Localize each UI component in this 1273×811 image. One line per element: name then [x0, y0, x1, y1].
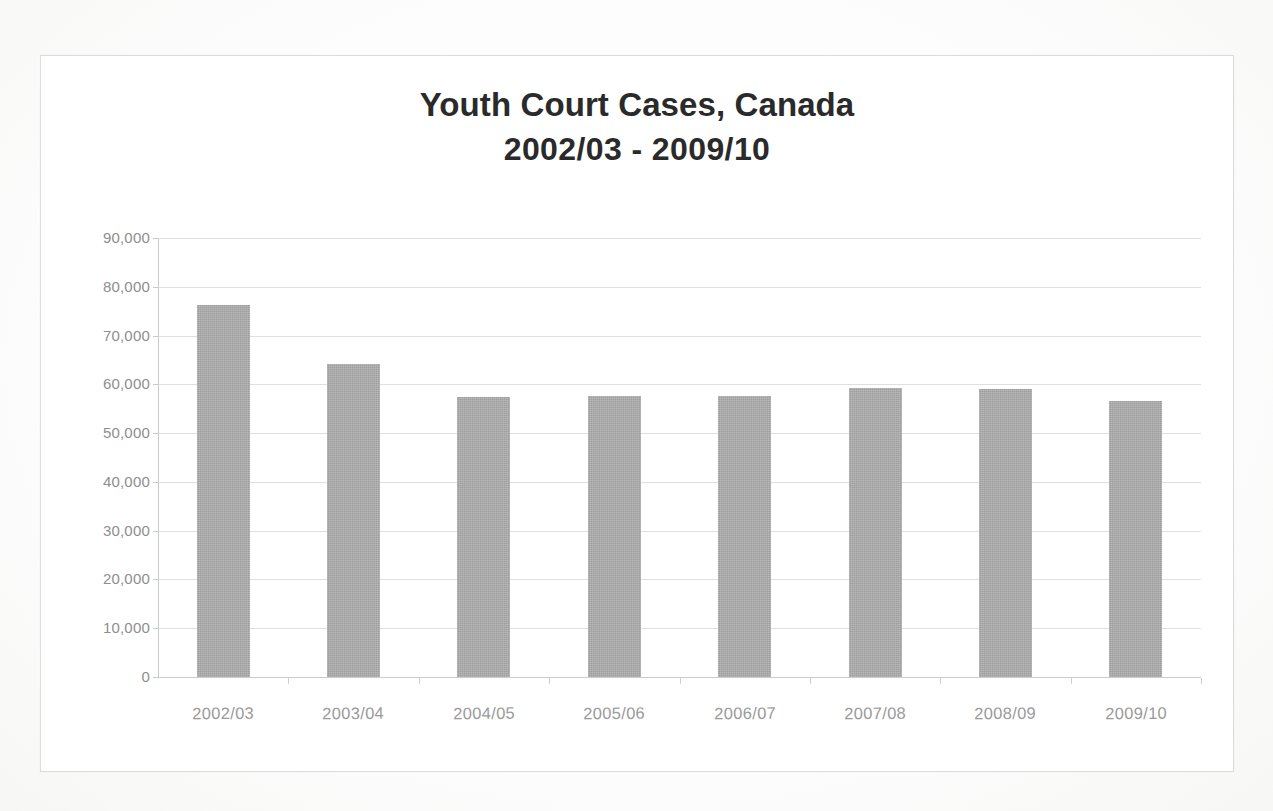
- x-tick-mark: [1071, 678, 1072, 684]
- bar-series: [158, 238, 1201, 677]
- x-tick-label-2009-10: 2009/10: [1071, 704, 1202, 724]
- y-tick-label: 30,000: [40, 522, 150, 539]
- x-tick-label-2007-08: 2007/08: [810, 704, 941, 724]
- x-tick-label-2006-07: 2006/07: [679, 704, 810, 724]
- bar-2007-08: [849, 388, 902, 677]
- x-tick-mark: [549, 678, 550, 684]
- chart-title-line-2: 2002/03 - 2009/10: [41, 127, 1233, 172]
- y-tick-label: 90,000: [40, 229, 150, 246]
- bar-2006-07: [718, 396, 771, 677]
- y-tick-label: 60,000: [40, 375, 150, 392]
- bar-2008-09: [979, 389, 1032, 677]
- x-tick-label-2004-05: 2004/05: [419, 704, 550, 724]
- x-tick-mark: [288, 678, 289, 684]
- y-tick-label: 10,000: [40, 619, 150, 636]
- y-tick-label: 20,000: [40, 570, 150, 587]
- bar-2009-10: [1109, 401, 1162, 677]
- bar-2005-06: [588, 396, 641, 677]
- chart-title-line-1: Youth Court Cases, Canada: [41, 82, 1233, 127]
- y-tick-label: 0: [40, 668, 150, 685]
- x-tick-label-2003-04: 2003/04: [288, 704, 419, 724]
- x-tick-label-2008-09: 2008/09: [940, 704, 1071, 724]
- x-tick-label-2005-06: 2005/06: [549, 704, 680, 724]
- x-tick-mark: [810, 678, 811, 684]
- plot-area: 90,00080,00070,00060,00050,00040,00030,0…: [158, 238, 1201, 677]
- y-tick-mark: [153, 677, 158, 678]
- x-tick-label-2002-03: 2002/03: [158, 704, 289, 724]
- x-tick-mark: [940, 678, 941, 684]
- chart-title: Youth Court Cases, Canada 2002/03 - 2009…: [41, 82, 1233, 172]
- x-axis-tick-labels: 2002/032003/042004/052005/062006/072007/…: [158, 704, 1201, 744]
- x-tick-mark: [1201, 678, 1202, 684]
- x-tick-mark: [680, 678, 681, 684]
- bar-2002-03: [197, 305, 250, 677]
- bar-2003-04: [327, 364, 380, 677]
- y-tick-label: 40,000: [40, 473, 150, 490]
- bar-2004-05: [457, 397, 510, 677]
- y-tick-label: 80,000: [40, 278, 150, 295]
- y-tick-label: 50,000: [40, 424, 150, 441]
- x-tick-mark: [419, 678, 420, 684]
- y-tick-label: 70,000: [40, 327, 150, 344]
- chart-frame: Youth Court Cases, Canada 2002/03 - 2009…: [40, 55, 1234, 772]
